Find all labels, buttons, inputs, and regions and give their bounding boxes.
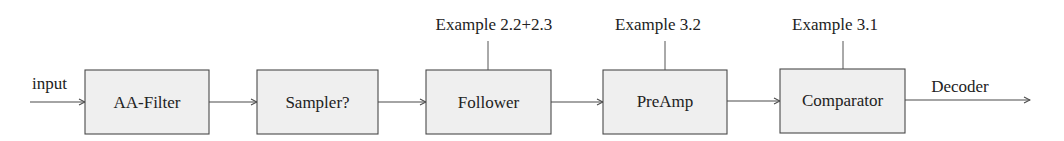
block-label: Follower (458, 93, 520, 112)
block-label: AA-Filter (113, 93, 180, 112)
annotation-comparator: Example 3.1 (792, 15, 878, 34)
block-aa-filter: AA-Filter (85, 70, 209, 134)
annotation-preamp: Example 3.2 (615, 15, 701, 34)
block-label: Sampler? (285, 93, 349, 112)
signal-chain-diagram: input AA-Filter Sampler? Follower Exampl… (0, 0, 1064, 141)
block-preamp: PreAmp (603, 70, 727, 134)
block-label: Comparator (802, 91, 884, 110)
block-sampler: Sampler? (257, 70, 378, 134)
annotation-follower: Example 2.2+2.3 (436, 15, 553, 34)
block-comparator: Comparator (780, 69, 905, 133)
input-label: input (32, 74, 67, 93)
block-label: PreAmp (637, 92, 694, 111)
block-follower: Follower (426, 70, 551, 134)
output-label: Decoder (931, 77, 989, 96)
